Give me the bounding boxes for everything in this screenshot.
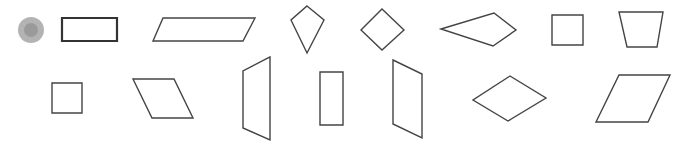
shape-parallelogram-wide[interactable] [153, 18, 255, 41]
shape-trapezoid-inverted[interactable] [619, 12, 663, 47]
shape-parallelogram-slanted[interactable] [133, 79, 193, 118]
shapes-svg [0, 0, 685, 145]
shape-diamond-square[interactable] [361, 9, 404, 50]
shape-parallelogram-right[interactable] [596, 75, 670, 122]
shape-kite-horizontal[interactable] [441, 13, 516, 46]
shape-parallelogram-vertical[interactable] [393, 60, 422, 138]
shape-rectangle-bold[interactable] [62, 18, 117, 41]
shape-rectangle-vertical[interactable] [320, 72, 343, 125]
shape-square-top[interactable] [552, 15, 583, 45]
shape-square-bottom[interactable] [52, 83, 82, 113]
shape-kite-vertical[interactable] [291, 6, 324, 53]
selection-marker[interactable] [18, 17, 44, 43]
marker-inner-circle [24, 23, 38, 37]
shape-layer [52, 6, 670, 140]
shape-rhombus[interactable] [473, 76, 546, 121]
shapes-canvas [0, 0, 685, 145]
shape-trapezoid-vertical[interactable] [243, 57, 270, 140]
